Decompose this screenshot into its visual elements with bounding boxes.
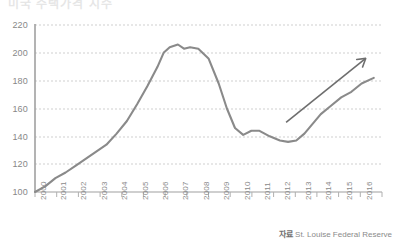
xtick-label-2001: 2001 <box>59 181 68 200</box>
xtick-label-2012: 2012 <box>283 181 292 200</box>
xtick-label-2000: 2000 <box>39 181 48 200</box>
ytick-label-220: 220 <box>2 20 28 30</box>
ytick-label-180: 180 <box>2 76 28 86</box>
xtick-label-2016: 2016 <box>365 181 374 200</box>
ytick-label-120: 120 <box>2 159 28 169</box>
ytick-label-200: 200 <box>2 48 28 58</box>
data-series-line <box>35 45 374 193</box>
source-note: 자료 St. Louise Federal Reserve <box>279 228 392 239</box>
ytick-label-160: 160 <box>2 104 28 114</box>
xtick-label-2010: 2010 <box>243 181 252 200</box>
xtick-label-2004: 2004 <box>120 181 129 200</box>
chart-container: 미국 주택가격 지수 <box>0 0 398 243</box>
xtick-label-2006: 2006 <box>161 181 170 200</box>
xtick-label-2011: 2011 <box>263 182 272 200</box>
xtick-label-2013: 2013 <box>304 181 313 200</box>
xtick-label-2009: 2009 <box>222 181 231 200</box>
gridlines <box>35 25 382 164</box>
xtick-label-2003: 2003 <box>100 181 109 200</box>
ytick-label-100: 100 <box>2 187 28 197</box>
ytick-label-140: 140 <box>2 132 28 142</box>
source-label: 자료 <box>279 230 293 239</box>
xtick-label-2007: 2007 <box>181 181 190 200</box>
xtick-label-2015: 2015 <box>345 181 354 200</box>
xtick-label-2005: 2005 <box>141 181 150 200</box>
xtick-label-2002: 2002 <box>79 181 88 200</box>
chart-plot-area <box>0 0 398 243</box>
xtick-label-2008: 2008 <box>202 181 211 200</box>
xtick-label-2014: 2014 <box>324 181 333 200</box>
source-text: St. Louise Federal Reserve <box>295 230 392 239</box>
